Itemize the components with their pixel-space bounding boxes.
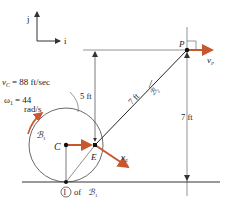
dim-5ft-label: 5 ft — [80, 91, 92, 101]
contact-point-label: I of ℬ1 — [61, 187, 98, 198]
svg-text:I: I — [64, 188, 67, 197]
diagram-canvas: j i vC= 88 ft/sec ω1= 44 rad/s ℬ1 ℬ2 — [0, 0, 225, 205]
vp-label: vP — [207, 55, 214, 66]
body1-label: ℬ1 — [36, 130, 46, 141]
i-axis-label: i — [64, 36, 67, 46]
ie-line — [66, 145, 95, 182]
rod-b2 — [95, 50, 187, 145]
p-label: P — [178, 39, 185, 49]
kinematics-diagram: j i vC= 88 ft/sec ω1= 44 rad/s ℬ1 ℬ2 — [0, 0, 225, 205]
point-e — [93, 143, 97, 147]
ve-label: vE — [121, 152, 128, 163]
vc-label: vC= 88 ft/sec — [2, 77, 50, 88]
svg-text:ℬ1: ℬ1 — [88, 187, 98, 198]
j-axis-label: j — [26, 14, 30, 24]
svg-text:of: of — [74, 187, 81, 197]
e-label: E — [90, 152, 97, 162]
point-p — [185, 48, 189, 52]
body2-label: ℬ2 — [148, 85, 161, 98]
dim-7ft-height-label: 7 ft — [181, 112, 193, 122]
dim-7ft-rod-label: 7 ft — [126, 91, 142, 107]
point-i — [64, 180, 68, 184]
c-label: C — [54, 141, 61, 152]
omega-unit-label: rad/s — [24, 104, 42, 114]
point-c — [64, 143, 68, 147]
coordinate-axes-icon: j i — [26, 12, 67, 46]
